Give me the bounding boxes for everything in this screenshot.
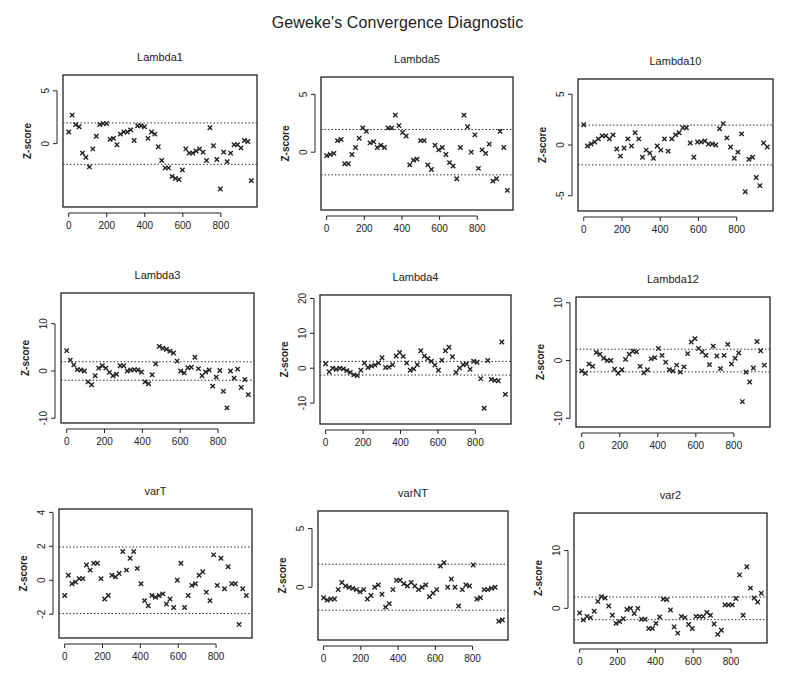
x-tick-label: 800	[723, 656, 740, 667]
x-tick-label: 0	[577, 656, 583, 667]
x-tick-label: 600	[685, 656, 702, 667]
data-points	[577, 565, 763, 637]
y-tick-label: 10	[551, 545, 562, 557]
panel-title: var2	[660, 489, 681, 501]
scatter-plot: var20200400600800010Z-score	[0, 0, 795, 691]
y-axis-label: Z-score	[533, 560, 544, 597]
y-tick-label: 0	[551, 605, 562, 611]
x-tick-label: 200	[609, 656, 626, 667]
x-tick-label: 400	[647, 656, 664, 667]
plot-frame	[574, 513, 767, 643]
